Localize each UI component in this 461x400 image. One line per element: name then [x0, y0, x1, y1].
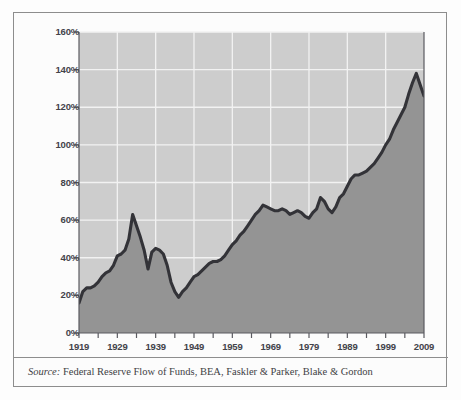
- source-text: Federal Reserve Flow of Funds, BEA, Fask…: [60, 366, 373, 377]
- source-divider: [14, 357, 448, 358]
- source-caption: Source: Federal Reserve Flow of Funds, B…: [28, 366, 438, 377]
- chart-figure: 0%20%40%60%80%100%120%140%160% 191919291…: [0, 0, 461, 400]
- x-axis-labels: 1919192919391949195919691979198919992009: [14, 13, 448, 358]
- chart-plot-region: 0%20%40%60%80%100%120%140%160% 191919291…: [14, 13, 448, 358]
- source-label: Source:: [28, 366, 60, 377]
- x-tick-label: 2009: [401, 341, 447, 352]
- figure-frame: 0%20%40%60%80%100%120%140%160% 191919291…: [13, 12, 447, 387]
